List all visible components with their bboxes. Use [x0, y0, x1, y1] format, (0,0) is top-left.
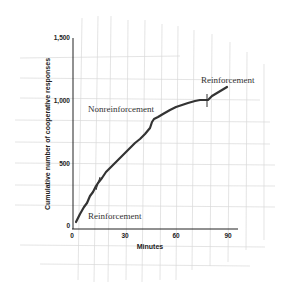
annotation-reinforcement-2: Reinforcement [201, 75, 255, 85]
x-tick-0: 0 [70, 232, 74, 239]
annotation-nonreinforcement: Nonreinforcement [88, 104, 154, 114]
x-tick-30: 30 [121, 232, 129, 239]
y-axis-title: Cumulative number of cooperative respons… [44, 58, 52, 210]
y-tick-1500: 1,500 [54, 34, 71, 42]
x-tick-90: 90 [224, 232, 232, 239]
y-tick-500: 500 [59, 160, 70, 167]
annotation-reinforcement-1: Reinforcement [88, 211, 142, 221]
y-tick-1000: 1,000 [54, 97, 71, 105]
cumulative-response-chart: 1,500 1,000 500 0 0 30 60 90 Minutes Cum… [0, 0, 283, 288]
x-tick-60: 60 [172, 232, 180, 239]
y-tick-0: 0 [66, 222, 70, 229]
x-axis-title: Minutes [137, 243, 164, 250]
